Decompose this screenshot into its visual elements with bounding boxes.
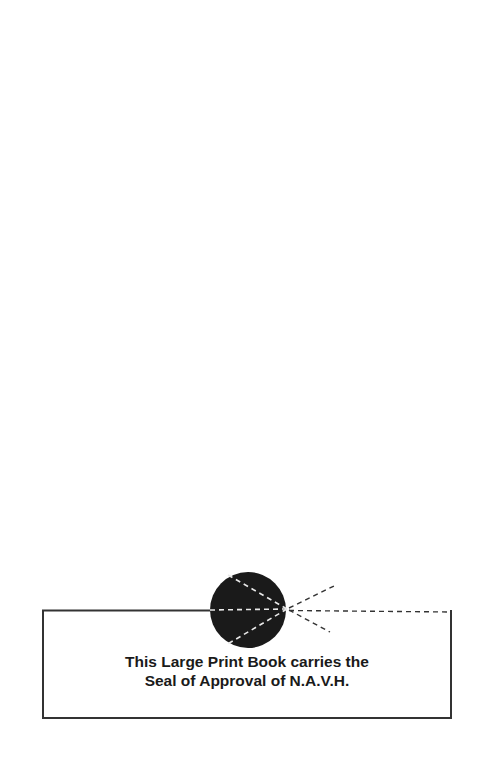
book-page: This Large Print Book carries the Seal o… (0, 0, 492, 766)
seal-caption-line-2: Seal of Approval of N.A.V.H. (42, 671, 452, 690)
seal-caption: This Large Print Book carries the Seal o… (42, 652, 452, 690)
seal-caption-line-1: This Large Print Book carries the (42, 652, 452, 671)
